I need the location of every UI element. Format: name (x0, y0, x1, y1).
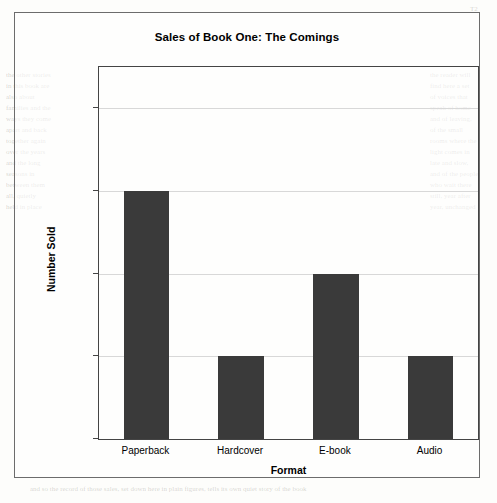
bar-audio (408, 356, 453, 439)
bars-layer (99, 67, 478, 439)
x-tick-label: Paperback (98, 445, 193, 456)
chart-frame: Sales of Book One: The Comings Number So… (14, 12, 480, 478)
bar-paperback (124, 191, 169, 439)
x-tick-label: E-book (288, 445, 383, 456)
chart-title: Sales of Book One: The Comings (15, 31, 479, 43)
x-tick-label: Audio (382, 445, 477, 456)
x-axis-title: Format (98, 464, 479, 476)
plot-area (98, 66, 479, 440)
page-ghost-text-bottom: and so the record of those sales, set do… (30, 484, 460, 495)
bar-hardcover (218, 356, 263, 439)
y-axis-title: Number Sold (45, 227, 57, 292)
bar-e-book (313, 274, 358, 439)
x-tick-label: Hardcover (193, 445, 288, 456)
